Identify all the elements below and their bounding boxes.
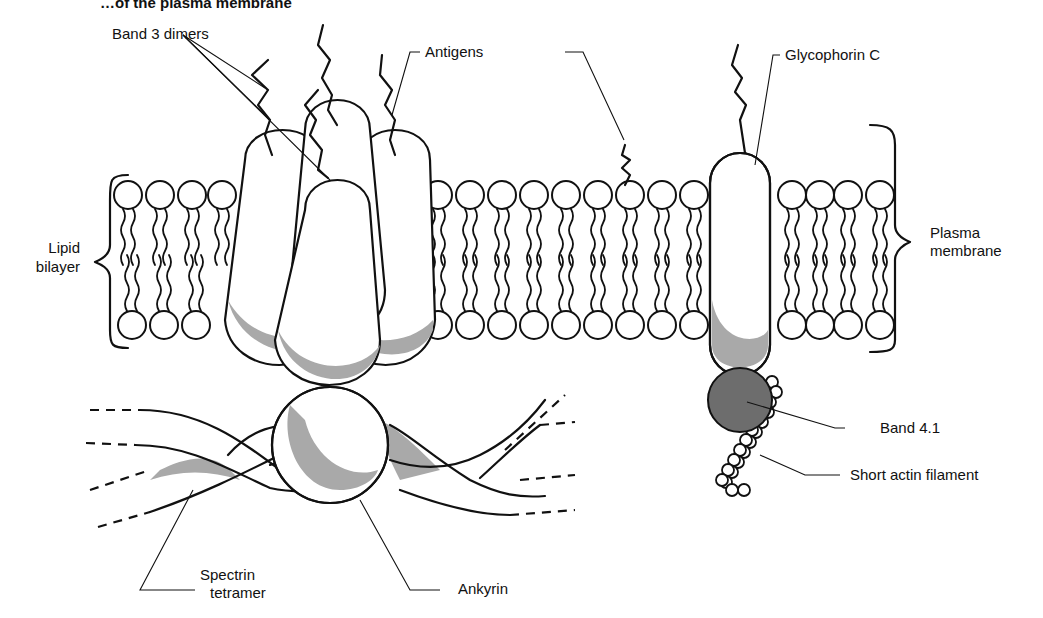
lipid-tail bbox=[189, 255, 193, 311]
label-plasma: Plasma bbox=[930, 224, 981, 241]
lipid-tail bbox=[215, 209, 219, 265]
lipid-head bbox=[806, 181, 834, 209]
lipid-head bbox=[520, 311, 548, 339]
lipid-head bbox=[182, 311, 210, 339]
label-antigens: Antigens bbox=[425, 43, 483, 60]
glycophorin-leader bbox=[755, 55, 780, 165]
label-spectrin: Spectrin bbox=[200, 566, 255, 583]
antigens-leader-left bbox=[392, 52, 420, 115]
lipid-tail bbox=[157, 255, 161, 311]
lipid-tail bbox=[199, 255, 203, 311]
glycophorin-c bbox=[710, 153, 770, 375]
lipid-head bbox=[648, 181, 676, 209]
lipid-head bbox=[584, 311, 612, 339]
lipid-head bbox=[114, 181, 142, 209]
lipid-tail bbox=[163, 209, 167, 265]
lipid-head bbox=[616, 311, 644, 339]
lipid-tail bbox=[195, 209, 199, 265]
lipid-tail bbox=[121, 209, 125, 265]
label-bilayer: bilayer bbox=[36, 258, 80, 275]
band41-actin bbox=[708, 368, 782, 496]
lipid-head bbox=[778, 311, 806, 339]
label-band41: Band 4.1 bbox=[880, 419, 940, 436]
lipid-tail bbox=[125, 255, 129, 311]
lipid-head bbox=[834, 311, 862, 339]
lipid-head bbox=[648, 311, 676, 339]
lipid-head bbox=[146, 181, 174, 209]
lipid-head bbox=[178, 181, 206, 209]
figure-title: …of the plasma membrane bbox=[100, 0, 292, 11]
lipid-head bbox=[866, 181, 894, 209]
lipid-tail bbox=[225, 209, 229, 265]
lipid-head bbox=[488, 311, 516, 339]
lipid-tail bbox=[131, 209, 135, 265]
lipid-tail bbox=[185, 209, 189, 265]
lipid-head bbox=[680, 311, 708, 339]
lipid-head bbox=[520, 181, 548, 209]
label-lipid: Lipid bbox=[48, 239, 80, 256]
label-membrane: membrane bbox=[930, 242, 1002, 259]
lipid-head bbox=[488, 181, 516, 209]
lipid-head bbox=[778, 181, 806, 209]
actin-leader bbox=[760, 455, 840, 475]
lipid-tail bbox=[135, 255, 139, 311]
lipid-head bbox=[584, 181, 612, 209]
lipid-head bbox=[150, 311, 178, 339]
lipid-head bbox=[616, 181, 644, 209]
label-glycophorin-c: Glycophorin C bbox=[785, 46, 880, 63]
label-ankyrin: Ankyrin bbox=[458, 580, 508, 597]
lipid-head bbox=[680, 181, 708, 209]
lipid-head bbox=[118, 311, 146, 339]
label-band3: Band 3 dimers bbox=[112, 25, 209, 42]
lipid-head bbox=[806, 311, 834, 339]
ankyrin-leader bbox=[360, 500, 440, 590]
lipid-head bbox=[456, 311, 484, 339]
lipid-tail bbox=[167, 255, 171, 311]
label-tetramer: tetramer bbox=[210, 584, 266, 601]
ankyrin bbox=[272, 387, 388, 503]
lipid-head bbox=[552, 181, 580, 209]
lipid-head bbox=[208, 181, 236, 209]
actin-monomer bbox=[726, 484, 738, 496]
lipid-head bbox=[552, 311, 580, 339]
actin-monomer bbox=[738, 484, 750, 496]
antigens-leader-right bbox=[565, 52, 624, 140]
membrane-diagram: …of the plasma membrane bbox=[0, 0, 1043, 618]
actin-monomer bbox=[716, 474, 728, 486]
band3-dimers bbox=[225, 100, 435, 385]
lipid-tail bbox=[153, 209, 157, 265]
lipid-head bbox=[834, 181, 862, 209]
lipid-head bbox=[456, 181, 484, 209]
band41-protein bbox=[708, 368, 772, 432]
label-actin: Short actin filament bbox=[850, 466, 979, 483]
lipid-head bbox=[866, 311, 894, 339]
